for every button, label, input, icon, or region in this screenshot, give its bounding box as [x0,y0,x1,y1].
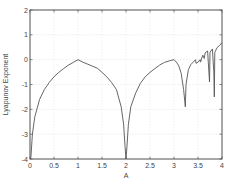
y-tick-label: -4 [22,156,28,163]
y-tick-labels: -4-3-2-1012 [22,7,28,163]
y-tick-label: 1 [24,31,28,38]
x-tick-label: 2 [124,162,128,169]
y-tick-label: 2 [24,7,28,14]
y-tick-label: -1 [22,81,28,88]
y-axis-label: Lyapunov Exponent [2,54,10,116]
grid-lines [30,10,222,159]
x-tick-label: 1.5 [97,162,107,169]
x-tick-label: 3 [172,162,176,169]
x-tick-label: 2.5 [145,162,155,169]
x-tick-label: 1 [76,162,80,169]
y-tick-label: -2 [22,106,28,113]
lyapunov-chart: 00.511.522.533.54 -4-3-2-1012 A Lyapunov… [0,0,234,189]
y-tick-label: -3 [22,131,28,138]
x-axis-label: A [124,172,129,179]
y-tick-label: 0 [24,56,28,63]
x-tick-labels: 00.511.522.533.54 [28,162,224,169]
x-tick-label: 0 [28,162,32,169]
x-tick-label: 4 [220,162,224,169]
x-tick-label: 3.5 [193,162,203,169]
x-tick-label: 0.5 [49,162,59,169]
